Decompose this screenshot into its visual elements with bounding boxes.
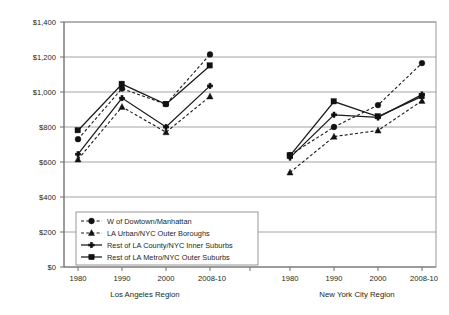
- x-tick-la-2008-10: 2008-10: [198, 274, 226, 283]
- marker-square: [207, 63, 212, 68]
- legend-label-3: Rest of LA Metro/NYC Outer Suburbs: [107, 253, 230, 262]
- x-tick-la-2000: 2000: [158, 274, 175, 283]
- panel-label-los-angeles: Los Angeles Region: [110, 290, 179, 299]
- legend-label-1: LA Urban/NYC Outer Boroughs: [107, 229, 210, 238]
- y-tick-1000: $1,000: [33, 88, 56, 97]
- figure-container: $1,400 $1,200 $1,000 $800 $600 $400 $200…: [0, 0, 449, 315]
- y-tick-600: $600: [39, 158, 56, 167]
- marker-circle: [119, 86, 125, 92]
- y-tick-1200: $1,200: [33, 53, 56, 62]
- chart-background: [0, 0, 449, 315]
- marker-circle: [375, 102, 381, 108]
- marker-square: [331, 99, 336, 104]
- marker-circle: [419, 60, 425, 66]
- y-tick-200: $200: [39, 228, 56, 237]
- x-tick-nyc-1990: 1990: [326, 274, 343, 283]
- legend: W of Dowtown/Manhattan LA Urban/NYC Oute…: [76, 212, 258, 265]
- marker-square: [75, 128, 80, 133]
- marker-circle: [75, 136, 81, 142]
- line-chart: $1,400 $1,200 $1,000 $800 $600 $400 $200…: [0, 0, 449, 315]
- marker-square-icon: [89, 254, 94, 259]
- marker-circle: [207, 52, 213, 58]
- marker-circle: [287, 152, 293, 158]
- y-tick-800: $800: [39, 123, 56, 132]
- y-tick-1400: $1,400: [33, 18, 56, 27]
- marker-circle: [331, 124, 337, 130]
- x-tick-la-1990: 1990: [114, 274, 131, 283]
- x-tick-la-1980: 1980: [70, 274, 87, 283]
- y-tick-0: $0: [48, 263, 56, 272]
- x-tick-nyc-2000: 2000: [370, 274, 387, 283]
- marker-circle: [163, 101, 169, 107]
- legend-label-2: Rest of LA County/NYC Inner Suburbs: [107, 241, 233, 250]
- x-tick-nyc-1980: 1980: [282, 274, 299, 283]
- panel-label-new-york-city: New York City Region: [319, 290, 394, 299]
- marker-circle-icon: [89, 218, 95, 224]
- y-tick-400: $400: [39, 193, 56, 202]
- x-tick-nyc-2008-10: 2008-10: [410, 274, 438, 283]
- legend-label-0: W of Dowtown/Manhattan: [107, 217, 192, 226]
